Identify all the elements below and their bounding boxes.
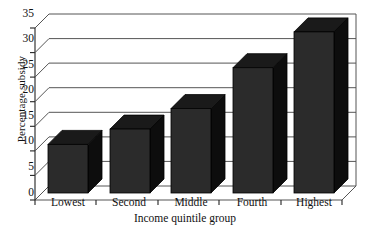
bar-chart: Percentage subsidy 35 30 25 20 15 10 5 0 (0, 0, 370, 236)
x-tick-label-highest: Highest (279, 196, 349, 208)
x-tick-label-second: Second (94, 196, 164, 208)
bar-fourth (233, 54, 287, 193)
bar-middle (171, 95, 225, 193)
bar-second (110, 115, 164, 193)
bar-series (48, 18, 348, 193)
x-axis-title: Income quintile group (0, 212, 370, 224)
y-axis-depth-edge (35, 14, 49, 28)
x-tick-label-lowest: Lowest (33, 196, 103, 208)
y-tickmarks (30, 28, 49, 200)
bar-lowest (48, 130, 102, 193)
x-tick-label-middle: Middle (156, 196, 226, 208)
bar-highest (294, 18, 348, 193)
x-tick-label-fourth: Fourth (217, 196, 287, 208)
